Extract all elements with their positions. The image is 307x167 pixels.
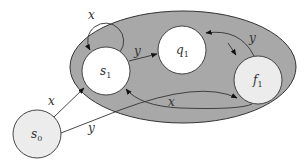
node-q1: q1 (158, 26, 206, 74)
label-s0-f1: y (87, 121, 95, 135)
label-f1-s1: x (168, 95, 175, 109)
label-s1-q1: y (133, 44, 141, 58)
node-s0-subscript: 0 (37, 134, 42, 143)
node-f1-subscript: 1 (257, 80, 262, 89)
label-loop-s1: x (88, 8, 95, 22)
edge-s0-s1 (54, 88, 84, 117)
label-f1-q1: y (248, 31, 256, 45)
label-s0-s1: x (48, 94, 55, 108)
node-s0: s0 (13, 110, 61, 158)
node-f1: f1 (234, 56, 282, 104)
node-s1: s1 (82, 47, 130, 95)
automaton-diagram: s1 q1 f1 s0 x y y x x y (0, 0, 307, 167)
node-q1-subscript: 1 (184, 50, 189, 59)
node-s1-subscript: 1 (106, 71, 111, 80)
